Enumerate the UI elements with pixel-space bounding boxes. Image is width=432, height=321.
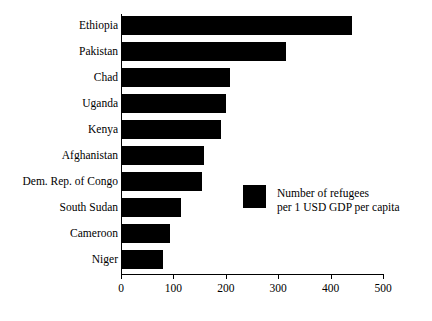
category-axis-labels: EthiopiaPakistanChadUgandaKenyaAfghanist… [0,14,118,274]
legend-swatch-refugees [243,185,266,208]
category-label-kenya: Kenya [0,120,118,139]
bar-south-sudan [121,198,181,217]
category-label-afghanistan: Afghanistan [0,146,118,165]
x-tick-mark [226,274,227,279]
x-tick-label-300: 300 [258,281,298,295]
category-label-chad: Chad [0,68,118,87]
category-label-ethiopia: Ethiopia [0,16,118,35]
x-tick-label-100: 100 [153,281,193,295]
bar-row [121,68,383,87]
chart-legend: Number of refugees per 1 USD GDP per cap… [243,185,400,214]
bar-ethiopia [121,16,352,35]
x-tick-mark [383,274,384,279]
category-label-niger: Niger [0,250,118,269]
x-tick-label-400: 400 [311,281,351,295]
bar-row [121,146,383,165]
x-tick-label-200: 200 [206,281,246,295]
bar-chad [121,68,230,87]
category-label-dem-rep-of-congo: Dem. Rep. of Congo [0,172,118,191]
bar-row [121,16,383,35]
x-tick-mark [278,274,279,279]
category-label-uganda: Uganda [0,94,118,113]
bar-afghanistan [121,146,204,165]
bar-row [121,120,383,139]
x-tick-mark [121,274,122,279]
bar-dem-rep-of-congo [121,172,202,191]
category-label-pakistan: Pakistan [0,42,118,61]
x-tick-mark [173,274,174,279]
legend-label-line-1: Number of refugees [277,186,400,200]
bar-chart-figure: EthiopiaPakistanChadUgandaKenyaAfghanist… [0,0,432,321]
bar-row [121,224,383,243]
bar-row [121,94,383,113]
bar-row [121,250,383,269]
category-label-south-sudan: South Sudan [0,198,118,217]
x-tick-label-500: 500 [363,281,403,295]
legend-label-refugees: Number of refugees per 1 USD GDP per cap… [277,185,400,214]
plot-area [121,14,383,274]
x-tick-mark [331,274,332,279]
category-label-cameroon: Cameroon [0,224,118,243]
x-tick-label-0: 0 [101,281,141,295]
bar-niger [121,250,163,269]
bar-row [121,42,383,61]
legend-label-line-2: per 1 USD GDP per capita [277,200,400,214]
bar-uganda [121,94,226,113]
x-axis-line [121,274,383,275]
bar-kenya [121,120,221,139]
bar-pakistan [121,42,286,61]
bar-cameroon [121,224,170,243]
